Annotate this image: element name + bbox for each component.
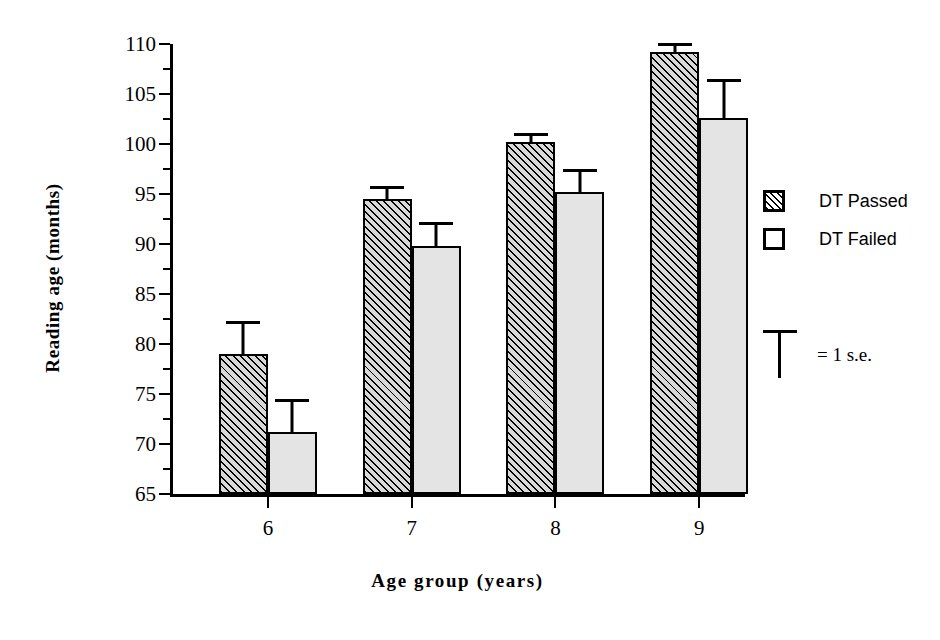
error-bar-cap — [419, 222, 453, 225]
error-bar-cap — [226, 321, 260, 324]
error-bar-cap — [658, 43, 692, 46]
y-tick-label: 65 — [135, 482, 156, 507]
legend-item-dt-passed[interactable]: DT Passed — [763, 182, 908, 220]
y-tick-minor — [163, 168, 170, 170]
y-tick-minor — [163, 418, 170, 420]
hatched-swatch-icon — [763, 190, 785, 212]
standard-error-label: = 1 s.e. — [817, 344, 872, 366]
error-bar-cap — [514, 133, 548, 136]
y-tick-major — [159, 493, 170, 495]
x-tick — [554, 494, 556, 508]
y-tick-label: 80 — [135, 332, 156, 357]
bar-dt-passed-age-8 — [506, 142, 555, 494]
x-tick-label: 7 — [406, 516, 417, 541]
empty-swatch-icon — [763, 228, 785, 250]
error-bar-stem — [722, 79, 725, 118]
error-bar-stem — [435, 222, 438, 246]
plot-area: 65707580859095100105110 6789 — [170, 44, 745, 494]
y-tick-major — [159, 243, 170, 245]
bar-dt-failed-age-8 — [555, 192, 604, 494]
y-tick-minor — [163, 368, 170, 370]
y-axis-title: Reading age (months) — [42, 128, 64, 428]
y-tick-major — [159, 343, 170, 345]
y-tick-label: 75 — [135, 382, 156, 407]
x-axis-title: Age group (years) — [170, 570, 745, 592]
x-tick — [698, 494, 700, 508]
legend-item-dt-failed[interactable]: DT Failed — [763, 220, 908, 258]
error-bar-cap — [563, 169, 597, 172]
bar-chart-figure: Reading age (months) Age group (years) 6… — [0, 0, 940, 640]
bar-dt-passed-age-6 — [219, 354, 268, 494]
x-tick-label: 9 — [694, 516, 705, 541]
y-tick-major — [159, 293, 170, 295]
y-tick-minor — [163, 218, 170, 220]
legend: DT Passed DT Failed — [763, 182, 908, 258]
y-tick-major — [159, 193, 170, 195]
legend-label: DT Passed — [819, 191, 908, 212]
y-axis-line — [170, 44, 173, 494]
y-tick-label: 100 — [125, 132, 157, 157]
error-bar-cap — [370, 186, 404, 189]
y-tick-label: 70 — [135, 432, 156, 457]
bar-dt-passed-age-7 — [363, 199, 412, 494]
y-tick-label: 95 — [135, 182, 156, 207]
standard-error-key: = 1 s.e. — [763, 330, 872, 378]
x-tick-label: 8 — [550, 516, 561, 541]
y-tick-minor — [163, 68, 170, 70]
bar-dt-failed-age-9 — [699, 118, 748, 494]
error-bar-cap — [707, 79, 741, 82]
y-tick-label: 90 — [135, 232, 156, 257]
bar-dt-failed-age-7 — [412, 246, 461, 494]
legend-label: DT Failed — [819, 229, 897, 250]
y-tick-label: 105 — [125, 82, 157, 107]
x-tick — [411, 494, 413, 508]
y-tick-minor — [163, 318, 170, 320]
y-tick-label: 110 — [125, 32, 156, 57]
y-tick-label: 85 — [135, 282, 156, 307]
x-axis-line — [170, 494, 745, 497]
error-bar-cap — [275, 399, 309, 402]
y-tick-minor — [163, 118, 170, 120]
x-tick — [267, 494, 269, 508]
y-tick-major — [159, 43, 170, 45]
x-tick-label: 6 — [263, 516, 274, 541]
y-tick-major — [159, 143, 170, 145]
error-bar-stem — [242, 321, 245, 354]
y-tick-major — [159, 443, 170, 445]
error-bar-stem — [578, 169, 581, 192]
bar-dt-passed-age-9 — [650, 52, 699, 494]
y-tick-major — [159, 93, 170, 95]
y-tick-minor — [163, 468, 170, 470]
y-tick-major — [159, 393, 170, 395]
y-tick-minor — [163, 268, 170, 270]
bar-dt-failed-age-6 — [268, 432, 317, 494]
error-bar-icon — [763, 330, 797, 378]
error-bar-stem — [291, 399, 294, 432]
